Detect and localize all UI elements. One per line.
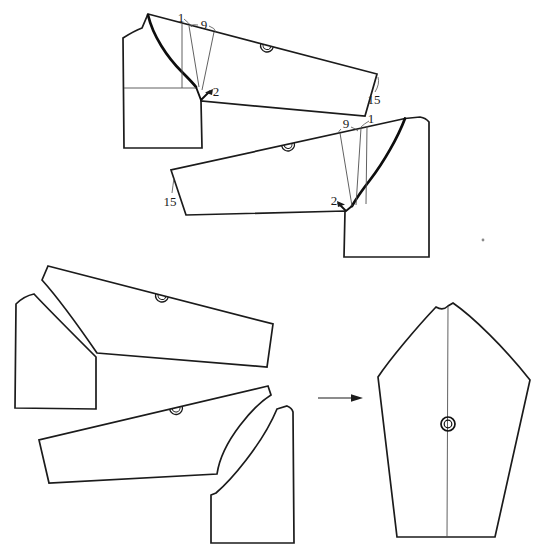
final-sleeve-piece xyxy=(378,303,530,537)
cut-front-bodice-piece xyxy=(15,294,96,409)
cut-back-sleeve-piece xyxy=(39,386,271,483)
front-armhole-curve xyxy=(148,15,196,87)
pattern-drafting-figure: 1 9 2 15 1 9 2 15 xyxy=(0,0,544,559)
center-grain-line xyxy=(447,307,448,537)
slash-line xyxy=(202,32,214,90)
measure-label-cuff: 15 xyxy=(164,194,177,209)
transformation-arrow-icon xyxy=(318,394,363,402)
cut-back-bodice-piece xyxy=(211,406,294,543)
center-double-circle-icon xyxy=(441,417,455,431)
measure-label-shoulder-gap: 1 xyxy=(368,111,375,126)
front-sleeve-outline xyxy=(42,266,273,367)
measure-label-spread: 9 xyxy=(343,116,350,131)
pattern-diagram-canvas: 1 9 2 15 1 9 2 15 xyxy=(0,0,544,559)
back-bodice-outline xyxy=(211,406,294,543)
measure-label-underarm: 2 xyxy=(331,193,338,208)
slash-line xyxy=(340,133,352,206)
front-bodice-outline xyxy=(15,294,96,409)
top-back-bodice-sleeve-piece: 1 9 2 15 xyxy=(164,111,430,257)
print-speck xyxy=(482,239,485,242)
measure-label-cuff: 15 xyxy=(368,92,381,107)
measure-label-shoulder-gap: 1 xyxy=(178,10,185,25)
slash-line xyxy=(189,26,199,87)
leader-line xyxy=(172,178,174,193)
slash-line xyxy=(366,126,367,204)
measure-label-underarm: 2 xyxy=(213,84,220,99)
back-bodice-sleeve-outline xyxy=(171,117,429,257)
front-bodice-sleeve-outline xyxy=(123,14,377,148)
back-sleeve-outline xyxy=(39,386,271,483)
cut-front-sleeve-piece xyxy=(42,266,273,367)
measure-label-spread: 9 xyxy=(201,17,208,32)
back-armhole-curve xyxy=(352,119,405,207)
